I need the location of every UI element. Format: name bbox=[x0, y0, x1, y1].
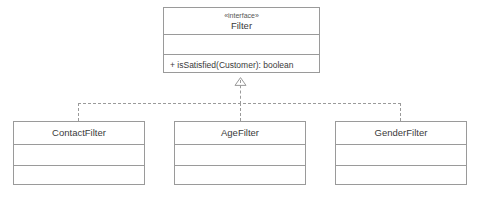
class-box-contactfilter[interactable]: ContactFilter bbox=[13, 121, 145, 185]
operations-compartment-contactfilter bbox=[14, 165, 144, 186]
uml-class-diagram-canvas: «interface» Filter + isSatisfied(Custome… bbox=[0, 0, 480, 201]
class-name-agefilter: AgeFilter bbox=[221, 127, 259, 139]
realization-drop-contactfilter bbox=[78, 103, 79, 121]
class-header-contactfilter: ContactFilter bbox=[14, 122, 144, 144]
class-box-filter-interface[interactable]: «interface» Filter + isSatisfied(Custome… bbox=[163, 7, 320, 73]
attributes-compartment-filter bbox=[164, 34, 319, 54]
attributes-compartment-agefilter bbox=[175, 144, 305, 165]
stereotype-label-interface: «interface» bbox=[224, 11, 259, 20]
operations-compartment-genderfilter bbox=[336, 165, 466, 186]
class-box-genderfilter[interactable]: GenderFilter bbox=[335, 121, 467, 185]
attributes-compartment-contactfilter bbox=[14, 144, 144, 165]
realization-drop-genderfilter bbox=[400, 103, 401, 121]
realization-stem-line bbox=[240, 80, 241, 104]
class-header-agefilter: AgeFilter bbox=[175, 122, 305, 144]
attributes-compartment-genderfilter bbox=[336, 144, 466, 165]
class-name-genderfilter: GenderFilter bbox=[375, 127, 428, 139]
operation-is-satisfied: + isSatisfied(Customer): boolean bbox=[170, 60, 294, 70]
class-box-agefilter[interactable]: AgeFilter bbox=[174, 121, 306, 185]
class-header-genderfilter: GenderFilter bbox=[336, 122, 466, 144]
realization-drop-agefilter bbox=[240, 103, 241, 121]
operations-compartment-filter: + isSatisfied(Customer): boolean bbox=[164, 54, 319, 74]
class-header-filter: «interface» Filter bbox=[164, 8, 319, 34]
class-name-filter: Filter bbox=[231, 20, 252, 32]
operations-compartment-agefilter bbox=[175, 165, 305, 186]
class-name-contactfilter: ContactFilter bbox=[52, 127, 106, 139]
